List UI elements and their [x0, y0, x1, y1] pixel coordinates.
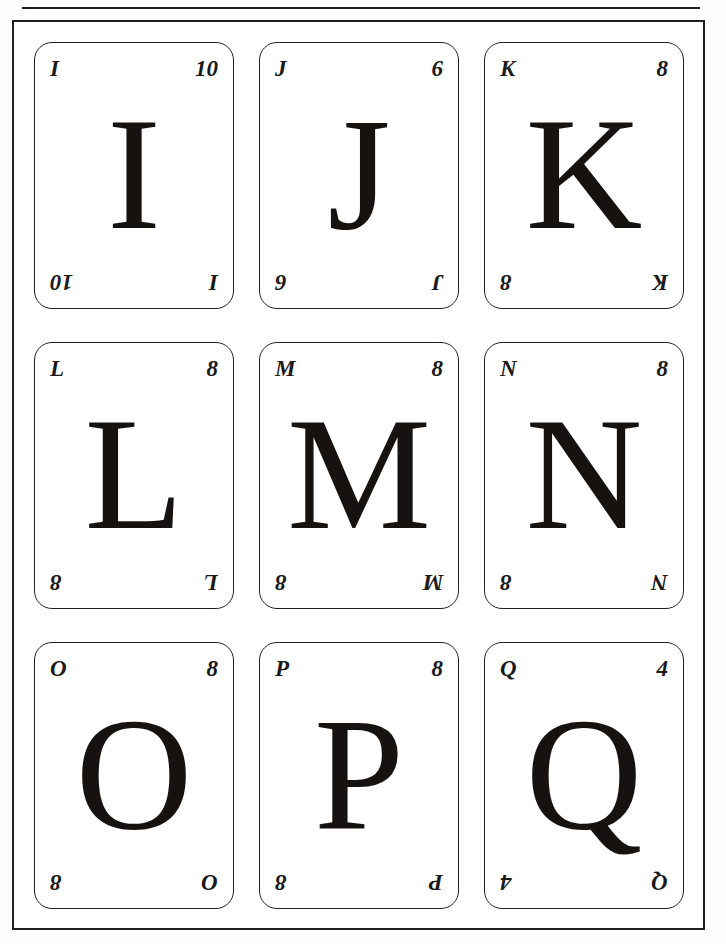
card-center-glyph-text: N — [526, 393, 643, 555]
card-index-bottom-right: I — [209, 271, 218, 294]
card-index-bottom-right: L — [204, 571, 218, 594]
card-center-glyph: M — [260, 343, 458, 608]
card-p[interactable]: P 8 P 8 P — [259, 642, 459, 909]
card-center-glyph-text: K — [526, 93, 643, 255]
page-top-rule — [22, 7, 700, 9]
card-index-bottom-left: 8 — [275, 571, 287, 594]
card-center-glyph: K — [485, 43, 683, 308]
card-index-bottom-left: 10 — [50, 271, 73, 294]
card-index-bottom-right: N — [651, 571, 668, 594]
card-center-glyph: I — [35, 43, 233, 308]
card-index-bottom-right: P — [429, 871, 443, 894]
card-index-bottom-right: M — [423, 571, 443, 594]
card-center-glyph: L — [35, 343, 233, 608]
card-center-glyph-text: I — [107, 93, 161, 255]
card-k[interactable]: K 8 K 8 K — [484, 42, 684, 309]
card-index-bottom-left: 6 — [275, 271, 287, 294]
card-l[interactable]: L 8 L 8 L — [34, 342, 234, 609]
card-n[interactable]: N 8 N 8 N — [484, 342, 684, 609]
card-i[interactable]: I 10 I 10 I — [34, 42, 234, 309]
card-index-bottom-right: Q — [651, 871, 668, 894]
card-center-glyph: P — [260, 643, 458, 908]
card-center-glyph: N — [485, 343, 683, 608]
card-o[interactable]: O 8 O 8 O — [34, 642, 234, 909]
card-center-glyph: J — [260, 43, 458, 308]
card-index-bottom-left: 8 — [275, 871, 287, 894]
card-center-glyph-text: O — [76, 693, 193, 855]
card-m[interactable]: M 8 M 8 M — [259, 342, 459, 609]
card-center-glyph: O — [35, 643, 233, 908]
card-center-glyph-text: M — [287, 393, 431, 555]
card-center-glyph-text: P — [314, 693, 404, 855]
card-grid: I 10 I 10 I J 6 J 6 J K 8 K 8 K L 8 L 8 … — [34, 42, 684, 908]
scanned-page: I 10 I 10 I J 6 J 6 J K 8 K 8 K L 8 L 8 … — [0, 0, 726, 944]
card-index-bottom-right: O — [201, 871, 218, 894]
card-index-bottom-left: 8 — [50, 871, 62, 894]
card-index-bottom-right: J — [432, 271, 444, 294]
card-center-glyph-text: Q — [526, 693, 643, 855]
card-center-glyph-text: L — [85, 393, 184, 555]
card-index-bottom-left: 8 — [500, 571, 512, 594]
card-center-glyph-text: J — [327, 93, 390, 255]
card-index-bottom-left: 8 — [50, 571, 62, 594]
card-index-bottom-left: 4 — [500, 871, 512, 894]
card-center-glyph: Q — [485, 643, 683, 908]
card-j[interactable]: J 6 J 6 J — [259, 42, 459, 309]
card-index-bottom-left: 8 — [500, 271, 512, 294]
card-q[interactable]: Q 4 Q 4 Q — [484, 642, 684, 909]
card-index-bottom-right: K — [653, 271, 668, 294]
